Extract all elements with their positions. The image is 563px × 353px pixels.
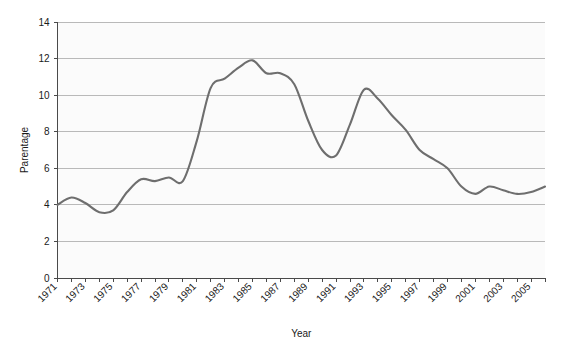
line-chart: 02468101214 1971197319751977197919811983… (0, 0, 563, 353)
y-tick-label: 4 (44, 199, 50, 210)
y-tick-label: 12 (38, 53, 50, 64)
plot-area-background (58, 22, 546, 278)
y-tick-label: 8 (44, 126, 50, 137)
y-tick-label: 6 (44, 163, 50, 174)
y-tick-label: 2 (44, 236, 50, 247)
y-axis-title: Parentage (19, 126, 30, 173)
y-tick-label: 14 (38, 17, 50, 28)
chart-canvas: 02468101214 1971197319751977197919811983… (0, 0, 563, 353)
y-tick-label: 10 (38, 90, 50, 101)
x-axis-title: Year (291, 328, 312, 339)
